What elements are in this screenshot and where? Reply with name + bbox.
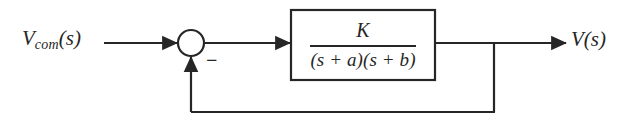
transfer-function-denominator: (s + a)(s + b)	[310, 50, 415, 70]
output-variable: V	[571, 27, 584, 51]
input-signal-label: Vcom(s)	[22, 28, 81, 49]
fraction-bar	[310, 45, 416, 47]
output-signal-label: V(s)	[571, 29, 606, 50]
input-variable: V	[22, 26, 35, 50]
transfer-function-expression: K (s + a)(s + b)	[291, 10, 435, 80]
summing-junction-circle	[178, 30, 204, 56]
output-argument: (s)	[584, 27, 606, 51]
block-diagram-canvas: Vcom(s) − K (s + a)(s + b) V(s)	[0, 0, 637, 121]
input-subscript: com	[35, 37, 59, 52]
transfer-function-numerator: K	[356, 20, 369, 43]
feedback-minus-sign: −	[206, 50, 217, 70]
input-argument: (s)	[59, 26, 81, 50]
